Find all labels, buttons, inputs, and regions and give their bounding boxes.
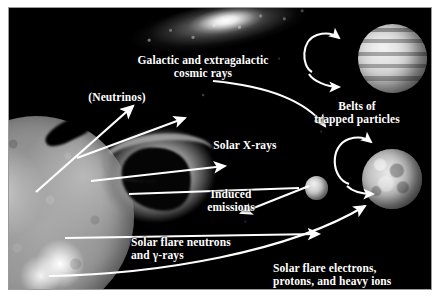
diagram-scene: Galactic and extragalactic cosmic rays (… [8,7,432,290]
label-solar-xrays: Solar X-rays [195,139,295,152]
figure-root: Galactic and extragalactic cosmic rays (… [0,0,442,299]
label-neutrinos: (Neutrinos) [69,91,165,104]
label-solar-flare-neutrons: Solar flare neutrons and γ-rays [131,236,299,262]
label-solar-flare-electrons: Solar flare electrons, protons, and heav… [273,262,432,288]
jupiter-belt-loop-lower [309,74,339,87]
solar-xrays-arrow-lower [91,166,225,181]
moon-belt-loop-lower [347,186,373,194]
solar-xrays-arrow-upper [77,118,185,158]
neutrinos-arrow [36,106,133,192]
jupiter-belt-loop-upper [304,34,339,72]
label-belts-of-trapped-particles: Belts of trapped particles [297,100,417,126]
moon-belt-loop-upper [335,138,371,184]
label-induced-emissions: Induced emissions [187,188,275,214]
label-cosmic-rays: Galactic and extragalactic cosmic rays [117,54,289,80]
